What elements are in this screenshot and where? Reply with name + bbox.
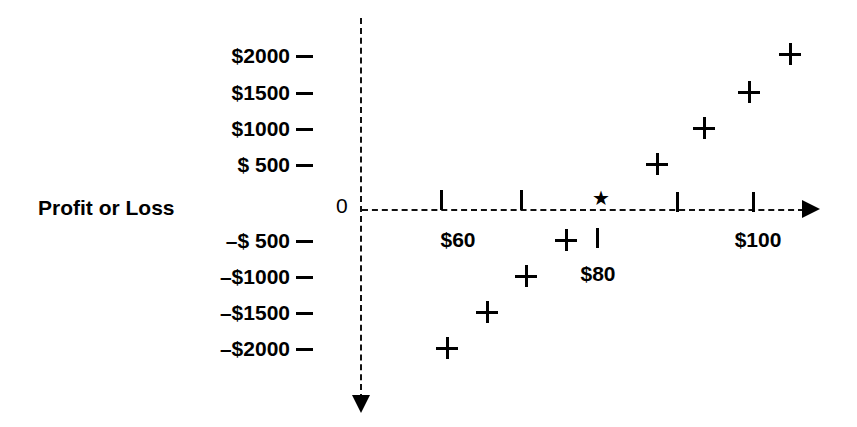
y-tick-label-500: $ 500 bbox=[175, 153, 290, 177]
y-tick-mark-neg500 bbox=[296, 240, 313, 243]
data-point-breakeven-star-icon: ★ bbox=[592, 188, 610, 208]
y-tick-label-neg1000: –$1000 bbox=[175, 265, 290, 289]
x-axis-arrow-right-icon bbox=[802, 200, 820, 218]
y-tick-mark-1000 bbox=[296, 128, 313, 131]
y-tick-label-1000: $1000 bbox=[175, 117, 290, 141]
y-tick-mark-1500 bbox=[296, 92, 313, 95]
y-tick-mark-2000 bbox=[296, 55, 313, 58]
y-tick-label-1500: $1500 bbox=[175, 81, 290, 105]
y-tick-label-neg500: –$ 500 bbox=[175, 229, 290, 253]
y-tick-mark-neg1000 bbox=[296, 276, 313, 279]
x-tick-mark-100 bbox=[752, 192, 755, 212]
x-tick-mark-70 bbox=[520, 190, 523, 210]
y-axis-title: Profit or Loss bbox=[38, 196, 175, 220]
x-tick-mark-80 bbox=[596, 228, 599, 248]
x-tick-label-80: $80 bbox=[548, 262, 648, 286]
x-tick-label-60: $60 bbox=[408, 228, 508, 252]
y-tick-mark-neg1500 bbox=[296, 312, 313, 315]
x-tick-mark-90 bbox=[676, 192, 679, 212]
y-axis-zero-label: 0 bbox=[336, 194, 348, 218]
x-axis-line bbox=[362, 209, 804, 211]
y-tick-mark-neg2000 bbox=[296, 348, 313, 351]
x-tick-label-100: $100 bbox=[708, 228, 808, 252]
y-tick-label-2000: $2000 bbox=[175, 44, 290, 68]
y-axis-arrow-down-icon bbox=[352, 395, 370, 413]
x-tick-mark-60 bbox=[440, 190, 443, 210]
y-tick-label-neg1500: –$1500 bbox=[175, 301, 290, 325]
y-tick-label-neg2000: –$2000 bbox=[175, 337, 290, 361]
y-tick-mark-500 bbox=[296, 164, 313, 167]
chart-canvas: Profit or Loss 0 $2000 $1500 $1000 $ 500… bbox=[0, 0, 857, 427]
